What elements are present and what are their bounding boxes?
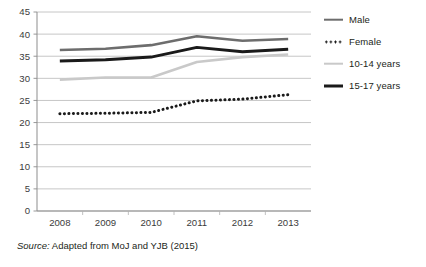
y-axis-tick-label: 20 bbox=[19, 117, 30, 128]
series-line bbox=[60, 36, 288, 50]
legend-item-male: Male bbox=[324, 10, 424, 29]
dotted-black-line-icon bbox=[324, 36, 343, 48]
source-label: Source: bbox=[17, 240, 50, 251]
y-axis-tick-label: 0 bbox=[25, 205, 30, 216]
legend-label: 10-14 years bbox=[349, 58, 400, 69]
y-axis-tick-label: 35 bbox=[19, 51, 30, 62]
y-axis-tick-label: 25 bbox=[19, 95, 30, 106]
legend-item-10-14-years: 10-14 years bbox=[324, 54, 424, 73]
y-axis-tick-label: 15 bbox=[19, 139, 30, 150]
figure-container: 0510152025303540452008200920102011201220… bbox=[0, 0, 426, 267]
source-caption: Source: Adapted from MoJ and YJB (2015) bbox=[17, 240, 198, 251]
legend-label: Male bbox=[349, 14, 370, 25]
x-axis-tick-label: 2013 bbox=[277, 217, 298, 228]
solid-gray-line-icon bbox=[324, 14, 343, 26]
y-axis-tick-label: 40 bbox=[19, 29, 30, 40]
solid-lightgray-line-icon bbox=[324, 58, 343, 70]
legend-item-15-17-years: 15-17 years bbox=[324, 76, 424, 95]
y-axis-tick-label: 10 bbox=[19, 161, 30, 172]
x-axis-tick-label: 2011 bbox=[187, 217, 208, 228]
legend-item-female: Female bbox=[324, 32, 424, 51]
y-axis-tick-label: 45 bbox=[19, 6, 30, 17]
series-line bbox=[60, 95, 288, 114]
x-axis-tick-label: 2008 bbox=[49, 217, 70, 228]
x-axis-tick-label: 2012 bbox=[232, 217, 253, 228]
chart-legend: Male Female 10-14 years 15-17 years bbox=[324, 10, 424, 98]
y-axis-tick-label: 5 bbox=[25, 183, 30, 194]
solid-black-line-icon bbox=[324, 80, 343, 92]
legend-label: Female bbox=[349, 36, 381, 47]
legend-label: 15-17 years bbox=[349, 80, 400, 91]
x-axis-tick-label: 2009 bbox=[95, 217, 116, 228]
x-axis-tick-label: 2010 bbox=[140, 217, 161, 228]
series-line bbox=[60, 54, 288, 79]
source-text: Adapted from MoJ and YJB (2015) bbox=[50, 240, 198, 251]
y-axis-tick-label: 30 bbox=[19, 73, 30, 84]
